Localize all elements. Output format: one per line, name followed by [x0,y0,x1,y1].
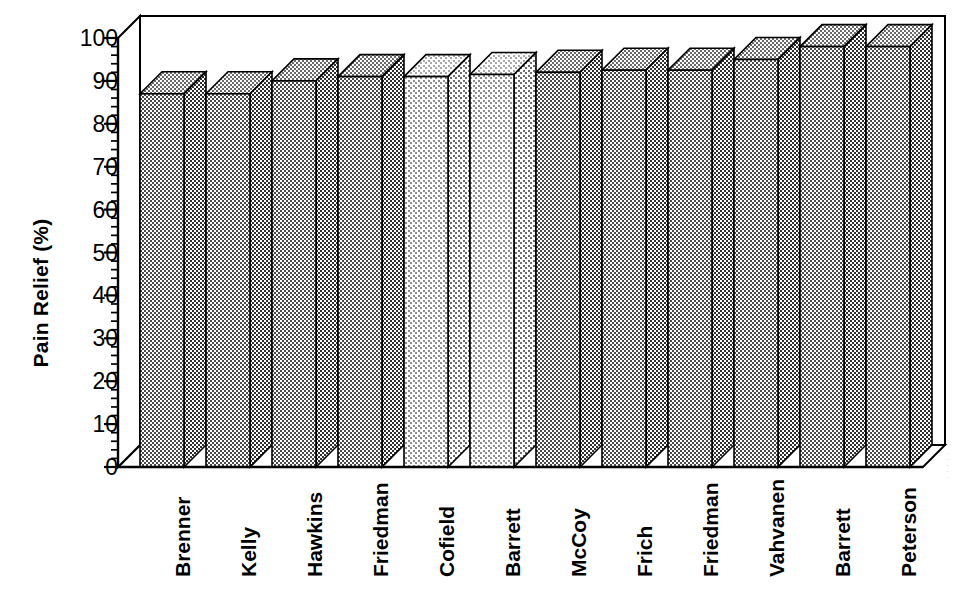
x-tick-label-brenner-0: Brenner [172,496,193,577]
x-tick-label-frich-7: Frich [634,526,655,577]
bar-friedman-3 [338,55,404,467]
x-tick-label-peterson-11: Peterson [898,487,919,577]
bar-vahvanen-9 [734,37,800,467]
x-tick-label-friedman-3: Friedman [370,482,391,577]
y-axis-title: Pain Relief (%) [24,148,58,438]
x-tick-label-barrett-10: Barrett [832,508,853,577]
plot-area: BrennerKellyHawkinsFriedmanCofieldBarret… [118,0,958,597]
x-tick-label-vahvanen-9: Vahvanen [766,479,787,577]
x-tick-label-barrett-5: Barrett [502,508,523,577]
page-edge-artifact: ····· [940,452,956,592]
bar-frich-7 [602,48,668,467]
x-tick-label-cofield-4: Cofield [436,506,457,577]
bar-barrett-10 [800,25,866,467]
bar-barrett-5 [470,52,536,467]
y-axis-tick-labels: 0102030405060708090100 [60,0,118,597]
bar-friedman-8 [668,48,734,467]
bar-chart-figure: Pain Relief (%) 0102030405060708090100 B… [0,0,958,597]
bar-mccoy-6 [536,50,602,467]
bar-brenner-0 [140,72,206,467]
x-tick-label-kelly-1: Kelly [238,527,259,577]
x-tick-label-hawkins-2: Hawkins [304,492,325,577]
bar-hawkins-2 [272,59,338,467]
bar-kelly-1 [206,72,272,467]
x-tick-label-friedman-8: Friedman [700,482,721,577]
bar-peterson-11 [866,25,932,467]
x-tick-label-mccoy-6: McCoy [568,508,589,577]
bar-cofield-4 [404,55,470,467]
